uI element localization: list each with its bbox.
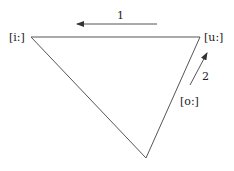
vertex-label-u: [u:] <box>204 31 223 44</box>
vertex-label-i: [i:] <box>9 31 25 44</box>
arrow-2-label: 2 <box>202 70 209 83</box>
vertex-label-o: [o:] <box>180 95 199 108</box>
vowel-triangle-diagram: 1 2 [i:] [u:] [o:] <box>0 0 234 171</box>
triangle <box>31 37 200 158</box>
arrow-1-label: 1 <box>117 9 124 22</box>
